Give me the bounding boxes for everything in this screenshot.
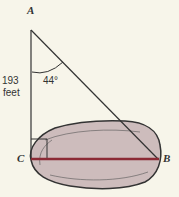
label-a: A xyxy=(27,4,34,16)
side-unit: feet xyxy=(3,87,20,99)
angle-label: 44° xyxy=(43,75,58,87)
triangle-diagram xyxy=(0,0,179,197)
side-length: 193 xyxy=(2,75,19,87)
pond-shape xyxy=(30,121,160,189)
label-c: C xyxy=(17,152,24,164)
angle-arc xyxy=(32,62,63,73)
label-b: B xyxy=(163,152,170,164)
